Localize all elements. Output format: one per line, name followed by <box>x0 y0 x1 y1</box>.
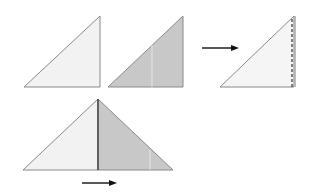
light-triangle <box>24 16 100 87</box>
arrow-right-icon <box>202 45 239 51</box>
folded-triangle <box>220 16 295 87</box>
opened-triangle <box>23 99 173 170</box>
origami-diagram <box>0 0 311 194</box>
arrow-right-icon <box>82 180 117 186</box>
grey-triangle <box>108 16 183 87</box>
